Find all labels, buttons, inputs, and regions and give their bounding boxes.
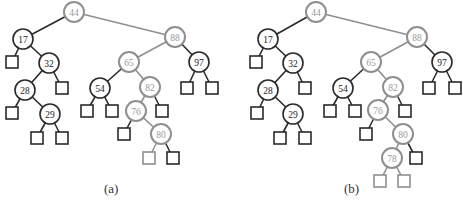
external-leaf-node [274,132,286,144]
node-key: 88 [170,33,180,43]
node-key: 44 [69,8,79,18]
tree-node-88: 88 [165,27,185,47]
binary-search-tree-diagram: 4417322829886597548276804417322829886597… [0,0,463,203]
node-key: 32 [288,59,298,69]
tree-node-82: 82 [140,77,160,97]
tree-node-80: 80 [151,124,171,144]
tree-node-97: 97 [189,52,209,72]
node-key: 97 [437,58,447,68]
external-leaf-node [206,82,218,94]
tree-node-17: 17 [13,29,33,49]
external-leaf-node [410,152,422,164]
node-key: 17 [263,35,273,45]
tree-node-28: 28 [15,80,35,100]
tree-node-17: 17 [258,29,278,49]
external-leaf-node [324,105,336,117]
node-key: 82 [145,83,155,93]
external-leaf-node [399,105,411,117]
tree-node-29: 29 [283,104,303,124]
external-leaf-node [299,132,311,144]
external-leaf-node [423,82,435,94]
external-leaf-node [181,82,193,94]
external-leaf-node [250,56,262,68]
external-leaf-node [6,56,18,68]
external-leaf-node [118,128,130,140]
caption-b: (b) [344,181,359,197]
external-leaf-node [156,105,168,117]
caption-a: (a) [104,181,118,197]
external-leaf-node [299,82,311,94]
tree-node-88: 88 [407,27,427,47]
external-leaf-node [349,105,361,117]
tree-node-80: 80 [393,124,413,144]
node-key: 29 [45,110,55,120]
tree-node-28: 28 [258,80,278,100]
node-key: 82 [388,83,398,93]
external-leaf-node [6,107,18,119]
tree-a: 441732282988659754827680 [6,2,218,164]
node-key: 80 [398,130,408,140]
tree-edge [74,12,175,37]
external-leaf-node [167,152,179,164]
tree-node-32: 32 [283,53,303,73]
tree-node-65: 65 [361,52,381,72]
node-key: 76 [131,107,141,117]
tree-node-76: 76 [126,101,146,121]
tree-node-29: 29 [40,104,60,124]
node-key: 76 [373,106,383,116]
node-key: 97 [194,58,204,68]
tree-node-54: 54 [90,78,110,98]
node-key: 44 [311,8,321,18]
tree-node-65: 65 [119,52,139,72]
node-key: 54 [95,84,105,94]
tree-node-76: 76 [368,100,388,120]
node-key: 88 [412,33,422,43]
node-key: 65 [366,58,376,68]
tree-node-32: 32 [39,53,59,73]
external-leaf-node [56,132,68,144]
external-leaf-node [81,105,93,117]
external-leaf-node [449,82,461,94]
tree-b: 44173228298865975482768078 [250,2,461,187]
external-leaf-node [143,152,155,164]
tree-edge [316,12,417,37]
node-key: 54 [338,84,348,94]
node-key: 32 [44,59,54,69]
external-leaf-node [398,175,410,187]
external-leaf-node [31,132,43,144]
tree-node-54: 54 [333,78,353,98]
tree-node-44: 44 [306,2,326,22]
node-key: 78 [387,154,397,164]
external-leaf-node [374,175,386,187]
tree-node-82: 82 [383,77,403,97]
node-key: 28 [20,86,30,96]
external-leaf-node [251,107,263,119]
external-leaf-node [56,82,68,94]
tree-node-97: 97 [432,52,452,72]
node-key: 28 [263,86,273,96]
node-key: 29 [288,110,298,120]
node-key: 17 [18,35,28,45]
node-key: 80 [156,130,166,140]
tree-node-78: 78 [382,148,402,168]
external-leaf-node [360,128,372,140]
tree-node-44: 44 [64,2,84,22]
node-key: 65 [124,58,134,68]
external-leaf-node [106,105,118,117]
